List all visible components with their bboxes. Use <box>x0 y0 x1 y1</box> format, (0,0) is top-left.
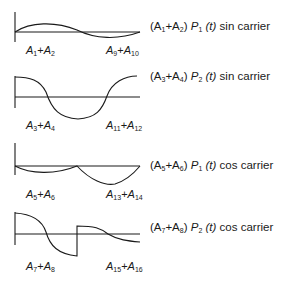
panel-3-signal <box>15 166 140 184</box>
panel-1-left-label: A1+A2 <box>26 45 55 57</box>
waveform-diagram <box>0 0 291 282</box>
panel-4-waveform <box>15 212 140 256</box>
panel-4-left-label: A7+A8 <box>26 261 55 273</box>
panel-2-waveform <box>15 76 140 119</box>
panel-1-caption: (A1+A2) P1 (t) sin carrier <box>150 21 270 33</box>
panel-3-right-label: A13+A14 <box>106 189 143 201</box>
panel-1-waveform <box>15 12 140 42</box>
panel-2-left-label: A3+A4 <box>26 120 55 132</box>
panel-3-waveform <box>15 143 140 184</box>
panel-3-caption: (A5+A6) P1 (t) cos carrier <box>150 160 273 172</box>
panel-2-caption: (A3+A4) P2 (t) sin carrier <box>150 71 270 83</box>
panel-4-caption: (A7+A8) P2 (t) cos carrier <box>150 222 273 234</box>
panel-4-right-label: A15+A16 <box>106 261 143 273</box>
panel-3-left-label: A5+A6 <box>26 189 55 201</box>
panel-2-right-label: A11+A12 <box>106 120 142 132</box>
panel-1-signal <box>15 24 140 38</box>
panel-1-right-label: A9+A10 <box>106 45 139 57</box>
